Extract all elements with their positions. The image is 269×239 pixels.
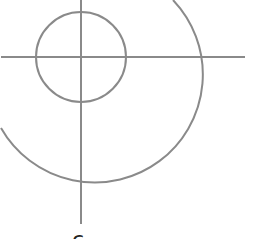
outer-arc [1, 0, 203, 183]
diagram-canvas [0, 0, 269, 239]
bottom-label: c [72, 229, 84, 239]
